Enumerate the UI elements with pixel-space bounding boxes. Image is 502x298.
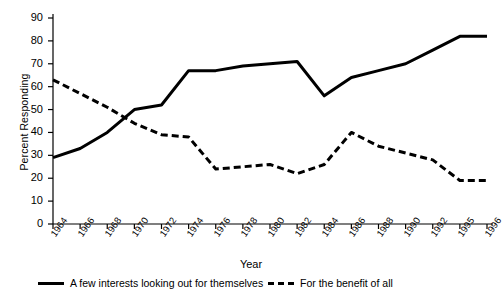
y-tick-label-30: 30	[17, 149, 43, 160]
legend-entry-solid: A few interests looking out for themselv…	[38, 276, 263, 290]
y-tick-label-70: 70	[17, 58, 43, 69]
x-axis-title: Year	[0, 258, 502, 270]
y-tick-label-60: 60	[17, 81, 43, 92]
y-tick-label-50: 50	[17, 104, 43, 115]
legend-label-dashed: For the benefit of all	[300, 277, 393, 289]
data-series-lines	[53, 36, 487, 180]
plot-area	[0, 0, 502, 298]
chart-legend: A few interests looking out for themselv…	[0, 276, 502, 292]
y-tick-label-40: 40	[17, 126, 43, 137]
legend-swatch-dashed-line-icon	[268, 276, 294, 290]
y-tick-label-0: 0	[17, 218, 43, 229]
y-tick-label-80: 80	[17, 35, 43, 46]
legend-label-solid: A few interests looking out for themselv…	[70, 277, 263, 289]
y-tick-label-20: 20	[17, 172, 43, 183]
axis-lines	[53, 14, 493, 224]
series-line-dashed	[53, 80, 487, 181]
y-tick-label-10: 10	[17, 195, 43, 206]
y-tick-marks	[48, 18, 53, 224]
legend-entry-dashed: For the benefit of all	[268, 276, 393, 290]
legend-swatch-solid-line-icon	[38, 276, 64, 290]
y-tick-label-90: 90	[17, 12, 43, 23]
cropped-caption-sliver	[72, 0, 272, 4]
series-line-solid	[53, 36, 487, 157]
chart-figure: Percent Responding Year 0102030405060708…	[0, 0, 502, 298]
